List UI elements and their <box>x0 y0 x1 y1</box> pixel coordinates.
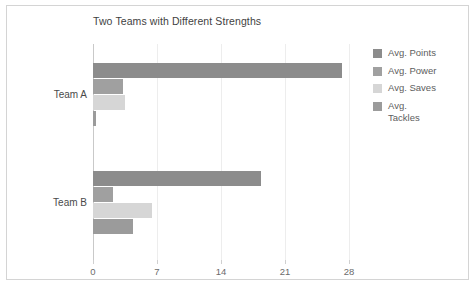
legend-item[interactable]: Avg. Power <box>373 65 436 78</box>
legend-item[interactable]: Avg. Tackles <box>373 100 436 125</box>
bar <box>93 187 113 202</box>
bar <box>93 203 152 218</box>
tick-mark <box>285 260 286 264</box>
x-axis-tick-label: 28 <box>344 266 355 277</box>
legend-swatch-icon <box>373 84 382 93</box>
legend-item[interactable]: Avg. Points <box>373 47 436 60</box>
bar <box>93 95 125 110</box>
legend-label: Avg. Saves <box>388 82 436 95</box>
x-axis-tick-label: 21 <box>280 266 291 277</box>
bar <box>93 171 261 186</box>
chart-title: Two Teams with Different Strengths <box>93 15 261 27</box>
legend-label: Avg. Tackles <box>388 100 420 125</box>
bar <box>93 111 96 126</box>
y-axis-category-label: Team B <box>33 197 87 208</box>
chart-frame: Two Teams with Different Strengths 07142… <box>6 5 469 280</box>
x-axis-tick-label: 7 <box>154 266 159 277</box>
chart-screenshot: Two Teams with Different Strengths 07142… <box>0 0 476 287</box>
bar <box>93 63 342 78</box>
legend-swatch-icon <box>373 67 382 76</box>
y-axis-category-label: Team A <box>33 89 87 100</box>
tick-mark <box>349 260 350 264</box>
legend-label: Avg. Points <box>388 47 436 60</box>
legend-label: Avg. Power <box>388 65 436 78</box>
tick-mark <box>221 260 222 264</box>
chart-legend: Avg. PointsAvg. PowerAvg. SavesAvg. Tack… <box>373 47 436 130</box>
legend-swatch-icon <box>373 102 382 111</box>
bar <box>93 219 133 234</box>
x-axis-tick-label: 14 <box>216 266 227 277</box>
tick-mark <box>157 260 158 264</box>
gridline <box>349 44 350 260</box>
legend-swatch-icon <box>373 49 382 58</box>
legend-item[interactable]: Avg. Saves <box>373 82 436 95</box>
tick-mark <box>93 260 94 264</box>
x-axis-tick-label: 0 <box>90 266 95 277</box>
bar <box>93 79 123 94</box>
